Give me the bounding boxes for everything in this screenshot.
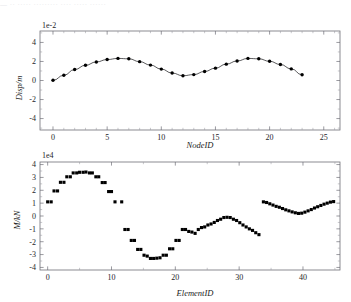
data-point [72,171,75,174]
data-point [110,190,113,193]
data-point [73,68,76,71]
data-point [78,171,81,174]
data-point [95,60,98,63]
displacement-xtick-label: 0 [51,133,55,142]
displacement-series [51,57,303,82]
data-point [181,74,184,77]
data-point [287,209,290,212]
data-point [241,223,244,226]
data-point [216,219,219,222]
moment-xtick-label: 10 [107,273,115,282]
data-point [104,181,107,184]
faded-header-text: — ·· ····· ········· ···· ····· ······ [0,0,351,9]
data-point [200,226,203,229]
data-point [316,205,319,208]
data-point [219,218,222,221]
displacement-ytick-label: -4 [29,114,36,123]
data-point [160,67,163,70]
data-point [300,73,303,76]
displacement-ytick-label: -2 [29,95,36,104]
moment-ytick-label: 0 [32,212,36,221]
moment-ytick-label: -2 [29,238,36,247]
data-point [142,254,145,257]
data-point [329,201,332,204]
data-point [214,66,217,69]
data-point [203,225,206,228]
displacement-axes: 0510152025-4-2024 [29,31,340,142]
data-point [291,210,294,213]
displacement-xtick-label: 20 [266,133,274,142]
data-point [165,254,168,257]
data-point [265,201,268,204]
moment-ytick-label: 1 [32,199,36,208]
data-point [235,59,238,62]
data-point [184,228,187,231]
data-point [222,216,225,219]
data-point [326,202,329,205]
data-point [300,212,303,215]
data-point [268,202,271,205]
data-point [168,247,171,250]
data-point [113,200,116,203]
data-point [94,175,97,178]
data-point [120,200,123,203]
data-point [303,211,306,214]
data-point [62,181,65,184]
displacement-ytick-label: 2 [32,57,36,66]
data-point [279,63,282,66]
data-point [158,256,161,259]
data-point [97,175,100,178]
displacement-ytick-label: 4 [32,38,36,47]
data-point [162,254,165,257]
data-point [225,216,228,219]
moment-xtick-label: 0 [46,273,50,282]
data-point [181,228,184,231]
data-point [192,73,195,76]
data-point [84,64,87,67]
moment-axes: 010203040-4-3-2-101234 [29,160,340,281]
data-point [149,257,152,260]
data-point [101,181,104,184]
moment-series [46,170,335,259]
data-point [310,208,313,211]
data-point [171,247,174,250]
data-point [319,204,322,207]
data-point [127,228,130,231]
data-point [232,218,235,221]
data-point [136,248,139,251]
data-point [149,63,152,66]
data-point [65,175,68,178]
figure-root: — ·· ····· ········· ···· ····· ······ 0… [0,0,351,302]
data-point [75,171,78,174]
data-point [52,189,55,192]
moment-plot-svg: 010203040-4-3-2-101234 1e4 M/kN ElementI… [0,148,351,302]
data-point [190,231,193,234]
data-point [146,255,149,258]
moment-x-axis-title: ElementID [176,288,215,298]
data-point [225,62,228,65]
moment-ytick-label: 4 [32,160,36,169]
data-point [281,207,284,210]
displacement-plot-panel: 0510152025-4-2024 1e-2 Disp/m NodeID [0,10,351,150]
moment-y-axis-title: M/kN [12,209,22,230]
data-point [251,229,254,232]
data-point [187,230,190,233]
data-point [257,233,260,236]
data-point [210,222,213,225]
data-point [213,221,216,224]
displacement-plot-svg: 0510152025-4-2024 1e-2 Disp/m NodeID [0,10,351,150]
data-point [155,257,158,260]
moment-plot-frame [40,162,340,270]
data-point [284,208,287,211]
displacement-ytick-label: 0 [32,76,36,85]
data-point [69,175,72,178]
data-point [50,200,53,203]
data-point [46,200,49,203]
data-point [254,231,257,234]
data-point [107,190,110,193]
moment-ytick-label: -3 [29,250,36,259]
moment-xtick-label: 20 [171,273,179,282]
data-point [133,239,136,242]
moment-plot-panel: 010203040-4-3-2-101234 1e4 M/kN ElementI… [0,148,351,302]
data-point [138,60,141,63]
